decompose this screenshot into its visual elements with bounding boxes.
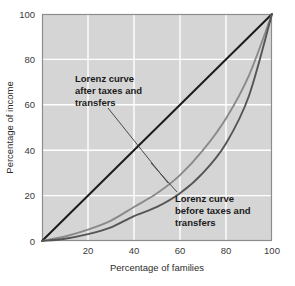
y-tick-label: 20 (24, 190, 35, 201)
y-tick-label: 0 (30, 236, 35, 247)
x-axis-title: Percentage of families (110, 262, 204, 273)
y-tick-label: 100 (19, 9, 35, 20)
annotation-line: transfers (175, 217, 216, 228)
y-tick-label: 40 (24, 145, 35, 156)
annotation-line: Lorenz curve (75, 73, 134, 84)
x-tick-label: 20 (83, 245, 94, 256)
x-tick-label: 40 (129, 245, 140, 256)
annotation-line: before taxes and (175, 205, 251, 216)
y-axis-title: Percentage of income (4, 81, 15, 173)
annotation-line: Lorenz curve (175, 193, 234, 204)
lorenz-curve-figure: 20406080100020406080100Percentage of fam… (0, 0, 295, 286)
y-tick-label: 80 (24, 54, 35, 65)
annotation-line: transfers (75, 97, 116, 108)
annotation-line: after taxes and (75, 85, 142, 96)
y-tick-label: 60 (24, 99, 35, 110)
chart-canvas: 20406080100020406080100Percentage of fam… (0, 0, 295, 286)
x-tick-label: 60 (175, 245, 186, 256)
x-tick-label: 80 (221, 245, 232, 256)
x-tick-label: 100 (264, 245, 280, 256)
